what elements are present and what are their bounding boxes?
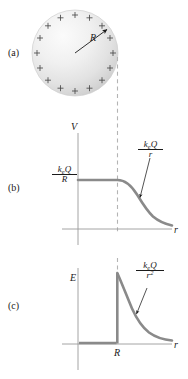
panel-b-outside-value: keQ r xyxy=(138,140,163,160)
panel-c-y-axis-label: E xyxy=(70,272,76,283)
panel-b-potential-curve xyxy=(78,180,172,226)
panel-a-sphere-group xyxy=(32,10,118,96)
panel-b-inside-value: keQ R xyxy=(52,165,77,185)
panel-b-annotation-leader xyxy=(140,158,150,198)
panel-c-x-axis-label: r xyxy=(174,339,178,350)
physics-figure: (a) (b) (c) R V r keQ R keQ r E r R keQ … xyxy=(0,0,188,379)
panel-c-label: (c) xyxy=(8,300,19,311)
panel-c-outside-value: keQ r2 xyxy=(136,261,164,281)
panel-c-field-curve xyxy=(117,273,172,341)
panel-b-x-axis-label: r xyxy=(174,224,178,235)
panel-b-label: (b) xyxy=(8,182,20,193)
sphere-radius-label: R xyxy=(90,32,96,43)
panel-c-annotation-leader xyxy=(137,288,148,314)
panel-a-label: (a) xyxy=(8,47,19,58)
panel-c-x-tick-label: R xyxy=(114,347,120,358)
panel-b-y-axis-label: V xyxy=(71,121,77,132)
figure-canvas xyxy=(0,0,188,379)
